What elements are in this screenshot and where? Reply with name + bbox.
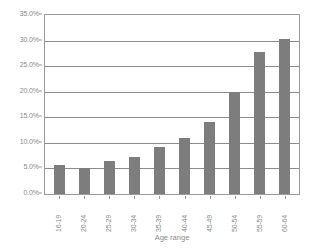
bar-slot [222, 15, 247, 194]
x-tick-slot: 25-29 [96, 196, 121, 232]
x-tick-slot: 60-64 [273, 196, 298, 232]
bar [229, 92, 240, 194]
x-tick-label: 16-19 [55, 198, 63, 232]
x-tick-label: 35-39 [155, 198, 163, 232]
y-tick-label: 0.0% [23, 189, 39, 197]
x-tick-slot: 20-24 [71, 196, 96, 232]
bar [104, 161, 115, 194]
bar [279, 39, 290, 194]
x-tick-slot: 45-49 [197, 196, 222, 232]
bar [154, 147, 165, 194]
x-tick-label: 40-44 [181, 198, 189, 232]
y-tick-mark [39, 141, 42, 142]
y-tick-label: 20.0% [20, 87, 39, 95]
bar [254, 52, 265, 194]
x-tick-label: 30-34 [130, 198, 138, 232]
y-tick-label: 10.0% [20, 138, 39, 146]
x-axis-title: Age range [44, 233, 300, 242]
x-tick-label: 45-49 [206, 198, 214, 232]
x-tick-slot: 16-19 [46, 196, 71, 232]
bars-group [45, 15, 299, 194]
y-tick-label: 5.0% [23, 163, 39, 171]
y-axis: 0.0%5.0%10.0%15.0%20.0%25.0%30.0%35.0% [0, 14, 42, 195]
y-tick-mark [39, 39, 42, 40]
y-tick-mark [39, 14, 42, 15]
y-tick-label: 30.0% [20, 36, 39, 44]
y-tick-label: 25.0% [20, 61, 39, 69]
bar-slot [172, 15, 197, 194]
bar [179, 138, 190, 194]
x-tick-label: 60-64 [281, 198, 289, 232]
bar-slot [47, 15, 72, 194]
x-tick-label: 25-29 [105, 198, 113, 232]
bar [204, 122, 215, 194]
y-tick-label: 35.0% [20, 10, 39, 18]
y-tick-mark [39, 90, 42, 91]
bar-slot [197, 15, 222, 194]
y-tick-mark [39, 193, 42, 194]
x-tick-slot: 55-59 [248, 196, 273, 232]
bar-slot [97, 15, 122, 194]
bar [54, 165, 65, 194]
bar-slot [247, 15, 272, 194]
x-tick-slot: 50-54 [222, 196, 247, 232]
bar-slot [147, 15, 172, 194]
bar [79, 168, 90, 194]
bar-chart: 0.0%5.0%10.0%15.0%20.0%25.0%30.0%35.0% 1… [0, 0, 320, 249]
x-tick-slot: 40-44 [172, 196, 197, 232]
x-tick-slot: 35-39 [147, 196, 172, 232]
x-axis: 16-1920-2425-2930-3435-3940-4445-4950-54… [44, 196, 300, 232]
x-tick-slot: 30-34 [122, 196, 147, 232]
x-tick-label: 55-59 [256, 198, 264, 232]
y-tick-label: 15.0% [20, 112, 39, 120]
bar-slot [72, 15, 97, 194]
x-tick-label: 20-24 [80, 198, 88, 232]
bar-slot [272, 15, 297, 194]
bar [129, 157, 140, 194]
bar-slot [122, 15, 147, 194]
y-tick-mark [39, 116, 42, 117]
y-tick-mark [39, 167, 42, 168]
y-tick-mark [39, 65, 42, 66]
x-tick-label: 50-54 [231, 198, 239, 232]
plot-area [44, 14, 300, 195]
